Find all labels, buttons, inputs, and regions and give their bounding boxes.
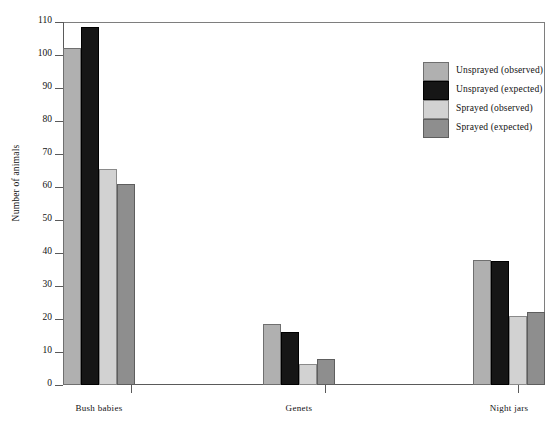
- x-tick-label: Bush babies: [75, 403, 122, 413]
- y-tick: 10: [55, 352, 63, 353]
- y-tick: 50: [55, 220, 63, 221]
- legend-swatch: [423, 62, 449, 81]
- legend-swatch: [423, 100, 449, 119]
- legend-label: Unsprayed (observed): [456, 65, 543, 75]
- legend-swatch: [423, 81, 449, 100]
- bar: [473, 260, 491, 385]
- y-tick-label: 80: [43, 114, 53, 124]
- y-tick: 20: [55, 319, 63, 320]
- bar: [81, 27, 99, 385]
- y-tick-label: 70: [43, 147, 53, 157]
- bar: [63, 48, 81, 385]
- y-tick-label: 110: [38, 15, 52, 25]
- y-tick: 70: [55, 154, 63, 155]
- plot-top-border: [63, 22, 545, 23]
- y-tick-label: 60: [43, 180, 53, 190]
- y-tick-label: 40: [43, 246, 53, 256]
- bar: [117, 184, 135, 385]
- legend-label: Sprayed (expected): [456, 122, 532, 132]
- bar: [281, 332, 299, 385]
- legend-label: Unsprayed (expected): [456, 84, 543, 94]
- y-tick-label: 30: [43, 279, 53, 289]
- y-tick-label: 20: [43, 312, 53, 322]
- y-tick: 60: [55, 187, 63, 188]
- x-tick-label: Night jars: [490, 403, 529, 413]
- bar-chart-figure: Number of animals 0102030405060708090100…: [0, 0, 559, 436]
- legend-swatch: [423, 119, 449, 138]
- y-tick: 90: [55, 88, 63, 89]
- x-tick: [325, 385, 326, 393]
- y-tick: 110: [55, 22, 63, 23]
- bar: [99, 169, 117, 385]
- y-tick-label: 100: [38, 48, 52, 58]
- legend-label: Sprayed (observed): [456, 103, 533, 113]
- y-tick: 80: [55, 121, 63, 122]
- bar: [263, 324, 281, 385]
- y-tick-label: 90: [43, 81, 53, 91]
- bar: [491, 261, 509, 385]
- plot-area: 0102030405060708090100110 Bush babiesGen…: [63, 22, 545, 385]
- bar: [527, 312, 545, 385]
- y-tick: 0: [55, 385, 63, 386]
- x-tick: [131, 385, 132, 393]
- y-tick-label: 50: [43, 213, 53, 223]
- y-tick: 30: [55, 286, 63, 287]
- bar: [509, 316, 527, 385]
- y-tick-label: 10: [43, 345, 53, 355]
- bar: [317, 359, 335, 385]
- y-axis-title: Number of animals: [11, 123, 21, 243]
- y-tick-label: 0: [47, 378, 52, 388]
- bar: [299, 364, 317, 385]
- x-tick: [518, 385, 519, 393]
- x-tick-label: Genets: [286, 403, 313, 413]
- y-tick: 40: [55, 253, 63, 254]
- y-tick: 100: [55, 55, 63, 56]
